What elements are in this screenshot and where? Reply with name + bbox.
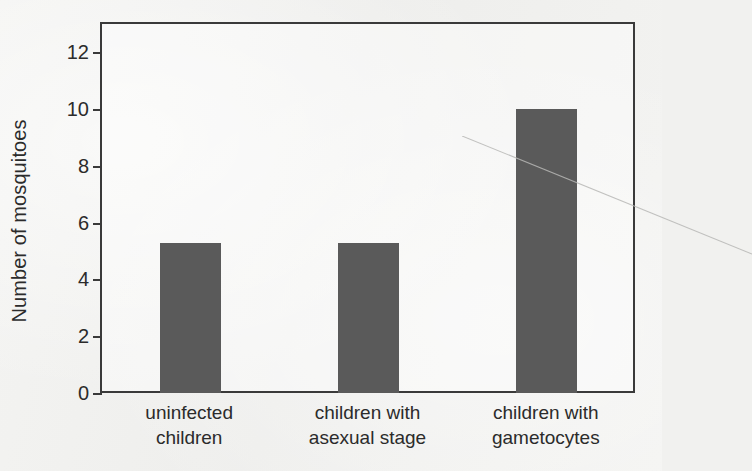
x-axis-label-line: asexual stage: [278, 425, 456, 450]
x-axis-label: uninfectedchildren: [100, 400, 278, 462]
bar: [338, 243, 399, 393]
y-tick-mark: [93, 166, 102, 168]
x-axis-category-labels: uninfectedchildrenchildren withasexual s…: [100, 400, 635, 462]
y-axis-title: Number of mosquitoes: [4, 49, 34, 393]
y-tick-label: 8: [78, 156, 89, 176]
x-axis-label: children withgametocytes: [457, 400, 635, 462]
y-tick-mark: [93, 109, 102, 111]
y-tick-mark: [93, 52, 102, 54]
y-tick-mark: [93, 393, 102, 395]
y-tick-label: 4: [78, 269, 89, 289]
x-axis-label: children withasexual stage: [278, 400, 456, 462]
x-axis-label-line: gametocytes: [457, 425, 635, 450]
y-tick-label: 12: [67, 42, 89, 62]
bar: [516, 109, 577, 393]
x-axis-label-line: children: [100, 425, 278, 450]
x-axis-label-line: children with: [278, 400, 456, 425]
y-tick-mark: [93, 336, 102, 338]
y-tick-mark: [93, 279, 102, 281]
y-tick-mark: [93, 223, 102, 225]
scan-crease-artifact: [462, 136, 752, 256]
y-tick-label: 6: [78, 213, 89, 233]
y-tick-label: 10: [67, 99, 89, 119]
y-tick-label: 2: [78, 326, 89, 346]
y-tick-label: 0: [78, 383, 89, 403]
x-axis-label-line: children with: [457, 400, 635, 425]
plot-area: 024681012: [102, 24, 635, 393]
bar: [160, 243, 221, 393]
x-axis-label-line: uninfected: [100, 400, 278, 425]
